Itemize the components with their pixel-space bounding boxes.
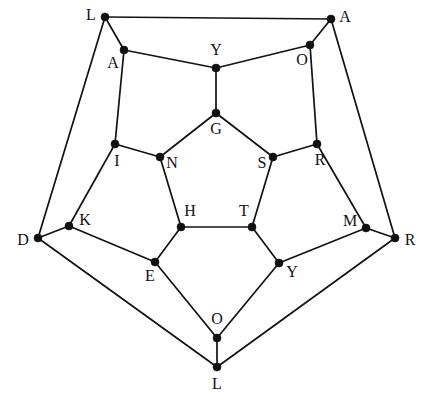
vertex-label: N	[166, 154, 178, 171]
graph-vertex	[151, 258, 159, 266]
graph-edge	[279, 228, 366, 263]
graph-vertex	[177, 223, 185, 231]
graph-vertex	[101, 13, 109, 21]
vertex-label: A	[339, 8, 351, 25]
vertex-label: S	[258, 154, 267, 171]
graph-edge	[273, 144, 317, 157]
graph-edge	[155, 227, 181, 262]
vertex-label: O	[211, 310, 223, 327]
vertex-label: A	[107, 54, 119, 71]
vertex-label: E	[145, 267, 155, 284]
graph-edge	[216, 113, 273, 157]
vertex-label: D	[17, 231, 29, 248]
vertex-label: G	[210, 120, 222, 137]
graph-vertex	[213, 363, 221, 371]
vertex-label: O	[296, 51, 308, 68]
vertex-label: Y	[210, 41, 222, 58]
vertex-label: L	[212, 375, 222, 392]
graph-edge	[160, 113, 216, 157]
graph-edge	[252, 227, 279, 263]
graph-vertex	[212, 64, 220, 72]
graph-vertex	[34, 234, 42, 242]
graph-vertex	[120, 46, 128, 54]
graph-edge	[69, 226, 155, 262]
dodecahedron-graph-diagram: LARLDAOMOKYRYEIGSTHN	[0, 0, 428, 402]
graph-edge	[38, 238, 217, 367]
graph-edge	[217, 238, 395, 367]
vertex-label: L	[86, 6, 96, 23]
graph-edge	[310, 19, 331, 45]
vertex-label: Y	[286, 263, 298, 280]
graph-edge	[155, 262, 217, 338]
vertex-label: R	[315, 151, 326, 168]
graph-edge	[310, 45, 317, 144]
graph-vertex	[306, 41, 314, 49]
graph-edge	[105, 17, 331, 19]
vertex-label: I	[114, 152, 119, 169]
graph-vertex	[156, 153, 164, 161]
graph-edge	[217, 263, 279, 338]
graph-edge	[38, 17, 105, 238]
vertex-label: K	[79, 211, 91, 228]
graph-vertex	[313, 140, 321, 148]
graph-edge	[331, 19, 395, 238]
vertex-label: T	[239, 202, 249, 219]
graph-edge	[69, 144, 115, 226]
graph-vertex	[275, 259, 283, 267]
graph-vertex	[65, 222, 73, 230]
graph-vertex	[362, 224, 370, 232]
graph-edge	[105, 17, 124, 50]
vertex-label: H	[184, 202, 196, 219]
vertex-label: R	[405, 231, 416, 248]
graph-edge	[38, 226, 69, 238]
graph-vertex	[212, 109, 220, 117]
graph-edge	[366, 228, 395, 238]
graph-vertex	[391, 234, 399, 242]
graph-vertex	[213, 334, 221, 342]
graph-edge	[124, 50, 216, 68]
graph-vertex	[269, 153, 277, 161]
graph-vertex	[248, 223, 256, 231]
graph-canvas: LARLDAOMOKYRYEIGSTHN	[0, 0, 428, 402]
graph-edge	[115, 144, 160, 157]
graph-vertex	[111, 140, 119, 148]
vertex-label: M	[343, 212, 357, 229]
graph-vertex	[327, 15, 335, 23]
